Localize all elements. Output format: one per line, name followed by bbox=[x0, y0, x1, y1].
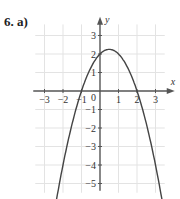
x-tick-label: −2 bbox=[58, 94, 69, 105]
parabola-graph: xy−3−2−1123−5−4−3−2−11230 bbox=[0, 0, 180, 199]
y-axis-label: y bbox=[104, 14, 110, 25]
y-tick-label: −4 bbox=[85, 160, 96, 171]
x-tick-label: 1 bbox=[116, 94, 121, 105]
y-tick-label: 2 bbox=[91, 49, 96, 60]
y-tick-label: −3 bbox=[85, 141, 96, 152]
origin-label: 0 bbox=[91, 92, 96, 103]
x-tick-label: −3 bbox=[39, 94, 50, 105]
x-axis-label: x bbox=[170, 76, 176, 87]
y-axis-arrow-icon bbox=[97, 17, 103, 25]
x-axis-arrow-icon bbox=[167, 88, 175, 94]
parabola-curve bbox=[57, 49, 163, 199]
y-tick-label: −1 bbox=[85, 104, 96, 115]
y-tick-label: −2 bbox=[85, 123, 96, 134]
y-tick-label: 1 bbox=[91, 67, 96, 78]
x-tick-label: 3 bbox=[153, 94, 158, 105]
y-tick-label: 3 bbox=[91, 30, 96, 41]
y-tick-label: −5 bbox=[85, 178, 96, 189]
